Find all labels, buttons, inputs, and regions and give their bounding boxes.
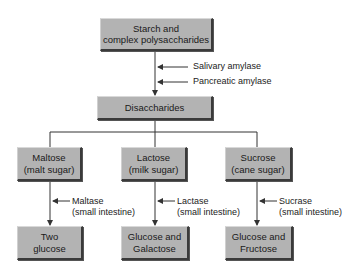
lactose-line2: (milk sugar): [129, 164, 179, 176]
pancreatic-amylase-label: Pancreatic amylase: [193, 76, 272, 87]
lactose-box: Lactose (milk sugar): [121, 147, 187, 181]
lactose-line1: Lactose: [129, 152, 179, 164]
maltose-box: Maltose (malt sugar): [17, 147, 82, 181]
product1-line2: glucose: [33, 243, 66, 255]
lactase-label: Lactase (small intestine): [177, 196, 240, 218]
sucrose-line1: Sucrose: [231, 152, 284, 164]
product1-line1: Two: [33, 231, 66, 243]
product3-line2: Fructose: [232, 243, 285, 255]
lactase-line1: Lactase: [177, 196, 240, 207]
starch-line1: Starch and: [103, 23, 209, 35]
maltose-line2: (malt sugar): [24, 164, 75, 176]
maltose-line1: Maltose: [24, 152, 75, 164]
sucrase-label: Sucrase (small intestine): [279, 196, 342, 218]
sucrose-line2: (cane sugar): [231, 164, 284, 176]
sucrose-box: Sucrose (cane sugar): [225, 147, 292, 181]
maltase-line1: Maltase: [72, 196, 135, 207]
product2-line2: Galactose: [128, 243, 181, 255]
disaccharides-label: Disaccharides: [125, 102, 185, 114]
disaccharides-box: Disaccharides: [97, 96, 213, 120]
two-glucose-box: Two glucose: [17, 226, 83, 260]
starch-line2: complex polysaccharides: [103, 34, 209, 46]
lactase-line2: (small intestine): [177, 207, 240, 218]
product2-line1: Glucose and: [128, 231, 181, 243]
product3-line1: Glucose and: [232, 231, 285, 243]
sucrase-line2: (small intestine): [279, 207, 342, 218]
maltase-line2: (small intestine): [72, 207, 135, 218]
sucrase-line1: Sucrase: [279, 196, 342, 207]
salivary-amylase-label: Salivary amylase: [193, 61, 261, 72]
glucose-fructose-box: Glucose and Fructose: [225, 226, 293, 260]
glucose-galactose-box: Glucose and Galactose: [121, 226, 189, 260]
starch-box: Starch and complex polysaccharides: [100, 18, 213, 51]
maltase-label: Maltase (small intestine): [72, 196, 135, 218]
